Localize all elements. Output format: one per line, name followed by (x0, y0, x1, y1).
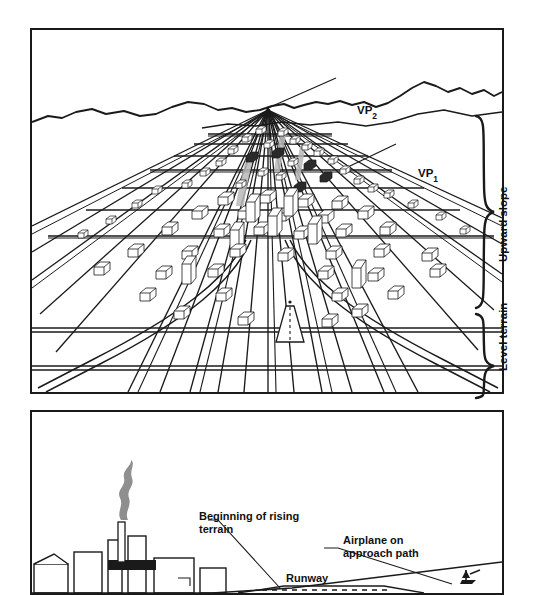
panel-b: B. (30, 410, 504, 595)
label-vp2: VP2 (357, 104, 377, 116)
label-vp1-text: VP (418, 167, 433, 179)
label-level-terrain: Level terrain (497, 303, 509, 371)
label-upward-slope: Upward slope (497, 187, 509, 262)
label-airplane-approach-path: Airplane on approach path (343, 534, 451, 559)
label-runway: Runway (286, 572, 328, 584)
label-vp2-subscript: 2 (372, 111, 377, 121)
label-vp2-text: VP (357, 104, 372, 116)
label-vp1-subscript: 1 (433, 174, 438, 184)
label-beginning-rising-terrain: Beginning of rising terrain (199, 510, 301, 535)
label-vp1: VP1 (418, 167, 438, 179)
panel-a-illustration (32, 30, 502, 392)
panel-a: A. (30, 28, 504, 394)
panel-b-illustration (32, 412, 502, 593)
